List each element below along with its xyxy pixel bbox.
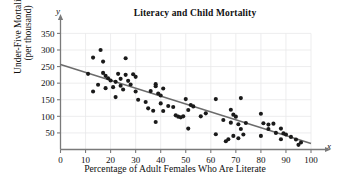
y-axis-ticks: 50100150200250300350 [41,29,61,139]
svg-text:20: 20 [106,155,116,165]
svg-text:80: 80 [256,155,266,165]
x-axis-ticks: 0102030405060708090100 [58,150,318,165]
svg-text:90: 90 [281,155,291,165]
svg-text:100: 100 [304,155,318,165]
svg-text:350: 350 [41,29,55,39]
svg-text:40: 40 [156,155,166,165]
svg-text:250: 250 [41,62,55,72]
svg-text:100: 100 [41,112,55,122]
svg-text:300: 300 [41,45,55,55]
svg-text:50: 50 [181,155,191,165]
svg-text:70: 70 [231,155,241,165]
svg-text:50: 50 [46,128,56,138]
data-points [86,48,303,147]
scatter-plot: 50100150200250300350 0102030405060708090… [0,0,344,182]
chart-figure: Literacy and Child Mortality y x Under-F… [0,0,344,182]
svg-text:30: 30 [131,155,141,165]
svg-text:60: 60 [206,155,216,165]
svg-text:10: 10 [81,155,91,165]
svg-text:200: 200 [41,78,55,88]
svg-text:0: 0 [58,155,63,165]
svg-text:150: 150 [41,95,55,105]
